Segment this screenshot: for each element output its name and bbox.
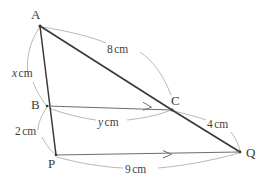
leader-arc-y-cm — [49, 108, 96, 120]
measure-unit-CQ: cm — [214, 118, 228, 130]
leader-arc-2-cm-lower — [42, 137, 55, 154]
direction-arrow-group — [143, 102, 172, 158]
segment-AC — [40, 26, 172, 110]
measure-label-AC: 8cm — [107, 44, 128, 56]
geometry-figure-canvas — [0, 0, 265, 186]
leader-arc-group — [27, 27, 240, 168]
segment-CQ — [172, 110, 240, 152]
measure-unit-PQ: cm — [132, 163, 146, 175]
vertex-label-C: C — [171, 94, 180, 107]
leader-arc-9-cm — [57, 157, 123, 168]
leader-arc-4-cm — [174, 111, 206, 120]
measure-value-AC: 8 — [107, 43, 113, 55]
vertex-label-Q: Q — [246, 146, 255, 159]
vertex-label-A: A — [31, 8, 40, 21]
measure-value-CQ: 4 — [207, 118, 213, 130]
measure-unit-AB: cm — [19, 67, 33, 79]
segment-BC — [47, 106, 171, 110]
vertex-dot-P — [55, 154, 58, 157]
vertex-dot-C — [171, 109, 174, 112]
measure-unit-AC: cm — [114, 43, 128, 55]
measure-label-BC: ycm — [98, 117, 119, 129]
leader-arc-8-cm — [42, 27, 106, 43]
measure-value-BC: y — [98, 116, 103, 128]
leader-arc-y-cm-right — [127, 110, 171, 120]
vertex-dot-Q — [239, 151, 242, 154]
measure-label-PQ: 9cm — [125, 164, 146, 176]
measure-label-CQ: 4cm — [207, 119, 228, 131]
measure-value-BP: 2 — [15, 125, 21, 137]
vertex-label-B: B — [31, 98, 40, 111]
leader-arc-8-cm-right — [140, 52, 171, 95]
measure-value-AB: x — [12, 67, 17, 79]
measure-value-PQ: 9 — [125, 163, 131, 175]
segment-PQ — [56, 152, 239, 155]
measure-label-BP: 2cm — [15, 126, 36, 138]
segment-AP — [40, 26, 56, 155]
direction-arrow-PQ-icon — [163, 151, 172, 158]
vertex-label-P: P — [48, 157, 55, 170]
vertex-dot-B — [46, 105, 49, 108]
measure-unit-BC: cm — [105, 116, 119, 128]
segment-group — [40, 26, 240, 155]
vertex-dot-A — [38, 24, 41, 27]
measure-label-AB: xcm — [12, 68, 33, 80]
measure-unit-BP: cm — [22, 125, 36, 137]
geometry-diagram: A B P C Q xcm 2cm 8cm ycm 4cm 9cm — [0, 0, 265, 186]
